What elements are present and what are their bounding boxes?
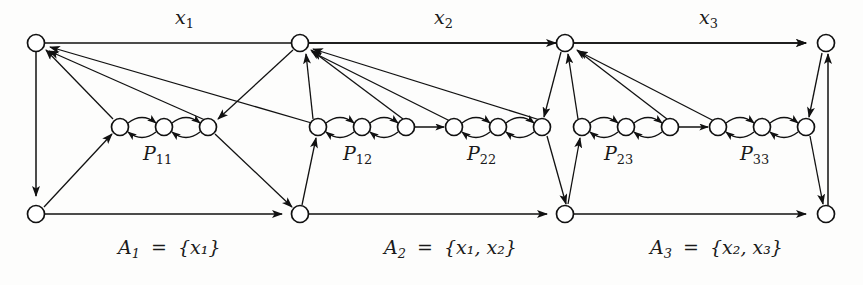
edge-label-x2-base: x [434,6,445,28]
node-p22-3 [534,119,551,136]
node-top-3 [557,35,574,52]
chain-label-p12-sub: 12 [356,152,372,167]
chain-label-p33: P33 [740,142,769,167]
set-label-a3-set: {x₂, x₃} [710,236,783,258]
set-label-a3: A3 = {x₂, x₃} [650,236,783,261]
chain-label-p22: P22 [467,142,496,167]
edge-label-x2: x2 [434,6,453,31]
chain-label-p11-base: P [143,142,156,164]
chain-label-p33-sub: 33 [753,152,769,167]
edge-label-x2-sub: 2 [445,16,453,31]
set-label-a2-sub: 2 [398,246,406,261]
chain-label-p12: P12 [343,142,372,167]
chain-label-p22-base: P [467,142,480,164]
set-label-a2-eq: = [417,236,433,258]
node-p12-3 [398,119,415,136]
node-p12-1 [310,119,327,136]
set-label-a2-base: A [384,236,398,258]
node-p33-3 [798,119,815,136]
set-label-a2-set: {x₁, x₂} [444,236,517,258]
set-label-a1-set: {x₁} [178,236,221,258]
set-label-a1: A1 = {x₁} [118,236,220,261]
node-top-1 [28,35,45,52]
node-bottom-1 [28,206,45,223]
chain-label-p11: P11 [143,142,172,167]
node-p23-3 [662,119,679,136]
node-p11-1 [112,119,129,136]
chain-label-p23: P23 [604,142,633,167]
chain-label-p23-base: P [604,142,617,164]
set-label-a1-base: A [118,236,132,258]
chain-label-p23-sub: 23 [617,152,633,167]
set-label-a2: A2 = {x₁, x₂} [384,236,517,261]
node-p23-1 [574,119,591,136]
edge-label-x1-base: x [175,6,186,28]
figure-canvas: x1 x2 x3 P11 P12 P22 P23 P33 A1 = {x₁} A… [0,0,863,285]
node-bottom-3 [557,206,574,223]
edge-label-x3-base: x [699,6,710,28]
node-top-2 [292,35,309,52]
set-label-a1-eq: = [151,236,167,258]
node-bottom-4 [818,206,835,223]
chain-label-p22-sub: 22 [480,152,496,167]
edge-label-x3: x3 [699,6,718,31]
node-p33-2 [754,119,771,136]
section-2-edges [302,49,566,205]
section-1-edges [44,47,315,207]
node-p12-2 [354,119,371,136]
edge-label-x1-sub: 1 [186,16,194,31]
edge-label-x3-sub: 3 [710,16,718,31]
chain-label-p11-sub: 11 [156,152,172,167]
set-label-a1-sub: 1 [132,246,140,261]
chain-label-p33-base: P [740,142,753,164]
node-p22-2 [490,119,507,136]
node-bottom-2 [292,206,309,223]
set-label-a3-base: A [650,236,664,258]
edge-label-x1: x1 [175,6,194,31]
node-p11-2 [156,119,173,136]
section-3-edges [568,50,823,204]
node-top-4 [818,35,835,52]
node-p11-3 [200,119,217,136]
set-label-a3-eq: = [683,236,699,258]
node-p23-2 [618,119,635,136]
node-p22-1 [446,119,463,136]
node-p33-1 [710,119,727,136]
chain-label-p12-base: P [343,142,356,164]
set-label-a3-sub: 3 [664,246,672,261]
